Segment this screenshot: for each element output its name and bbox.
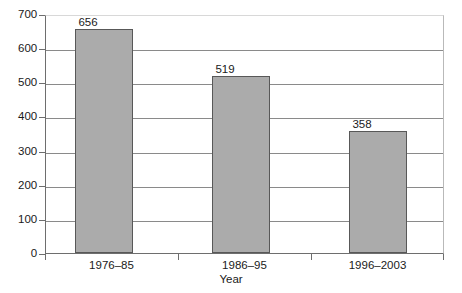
bar-value-label-1986-95: 519 [181,63,269,75]
y-axis-labels: 700 600 500 400 300 200 100 0 [0,0,37,293]
x-tick-label-1986-95: 1986–95 [178,259,311,272]
bar-chart: 700 600 500 400 300 200 100 0 656 519 35… [0,0,462,293]
plot-area [45,15,444,254]
bar-value-label-1996-2003: 358 [318,118,406,130]
y-tick-label-400: 400 [3,111,37,123]
bar-1996-2003 [349,131,407,253]
y-tick-label-200: 200 [3,180,37,192]
y-tick-label-0: 0 [3,248,37,260]
x-tick-label-1996-2003: 1996–2003 [311,259,444,272]
y-tick-label-700: 700 [3,9,37,21]
y-tick-label-500: 500 [3,77,37,89]
bar-1986-95 [212,76,270,253]
bar-value-label-1976-85: 656 [44,16,132,28]
y-tick-label-300: 300 [3,146,37,158]
y-tick-label-100: 100 [3,214,37,226]
y-tick-label-600: 600 [3,43,37,55]
x-tick-label-1976-85: 1976–85 [45,259,178,272]
x-axis-title: Year [0,273,462,286]
bar-1976-85 [75,29,133,253]
